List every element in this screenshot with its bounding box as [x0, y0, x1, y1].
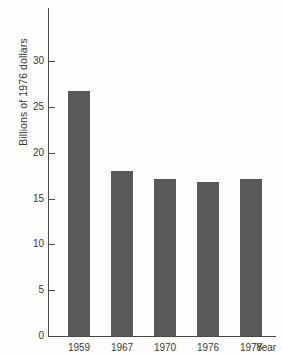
- bar: [154, 179, 176, 336]
- y-axis-tick-label: 20: [20, 146, 44, 159]
- y-axis-tick: 20: [49, 153, 55, 154]
- y-axis-tick-label: 30: [20, 54, 44, 67]
- bar: [197, 182, 219, 336]
- y-axis-tick: 10: [49, 244, 55, 245]
- y-axis-tick: 25: [49, 107, 55, 108]
- x-axis-tick-label: 1976: [186, 342, 230, 354]
- y-axis-tick-label: 5: [20, 283, 44, 296]
- plot-area: 051015202530 19591967197019761978 Year: [48, 8, 276, 337]
- y-axis-tick-label: 0: [20, 329, 44, 342]
- y-axis-tick-label: 25: [20, 100, 44, 113]
- x-axis-line: [48, 336, 276, 337]
- x-axis-title: Year: [244, 342, 282, 354]
- y-axis-tick: 30: [49, 61, 55, 62]
- bar: [240, 179, 262, 336]
- y-axis-tick-label: 15: [20, 192, 44, 205]
- y-axis-tick: 0: [49, 336, 55, 337]
- y-axis-line: [48, 8, 49, 337]
- y-axis-tick: 5: [49, 290, 55, 291]
- x-axis-tick-label: 1967: [100, 342, 144, 354]
- bar-chart: Billions of 1976 dollars 051015202530 19…: [0, 0, 282, 356]
- y-axis-tick: 15: [49, 199, 55, 200]
- x-axis-tick-label: 1970: [143, 342, 187, 354]
- bar: [111, 171, 133, 336]
- x-axis-tick-label: 1959: [57, 342, 101, 354]
- bar: [68, 91, 90, 336]
- y-axis-tick-label: 10: [20, 237, 44, 250]
